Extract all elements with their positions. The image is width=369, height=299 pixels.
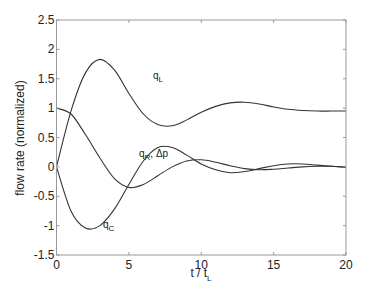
y-tick-label: 1.5: [38, 72, 55, 86]
plot-curves: [57, 59, 347, 229]
y-tick-label: 0: [48, 160, 55, 174]
x-axis-label: t / tL: [190, 266, 212, 283]
x-tick-label: 15: [267, 258, 281, 272]
q-r-dp-label: qR, Δp: [139, 148, 169, 162]
y-tick-label: -0.5: [34, 189, 55, 203]
y-tick-label: 2.5: [38, 13, 55, 27]
y-tick-label: 1: [48, 101, 55, 115]
q-r-dp-curve: [57, 108, 347, 188]
tick-marks: [57, 20, 347, 255]
x-tick-label: 5: [126, 258, 133, 272]
q-c-label: qC: [103, 219, 115, 233]
x-tick-label: 20: [339, 258, 353, 272]
tick-labels: 05101520-1.5-1-0.500.511.522.5: [34, 13, 353, 272]
y-tick-label: 2: [48, 42, 55, 56]
y-tick-label: -1: [44, 219, 55, 233]
q-l-curve: [57, 59, 347, 167]
y-tick-label: -1.5: [34, 248, 55, 262]
curve-labels: qLqR, ΔpqC: [103, 70, 169, 233]
axes-box: [57, 20, 347, 255]
chart: 05101520-1.5-1-0.500.511.522.5 qLqR, Δpq…: [0, 0, 369, 299]
y-axis-label: flow rate (normalized): [13, 80, 27, 195]
y-tick-label: 0.5: [38, 131, 55, 145]
q-l-label: qL: [153, 70, 164, 84]
